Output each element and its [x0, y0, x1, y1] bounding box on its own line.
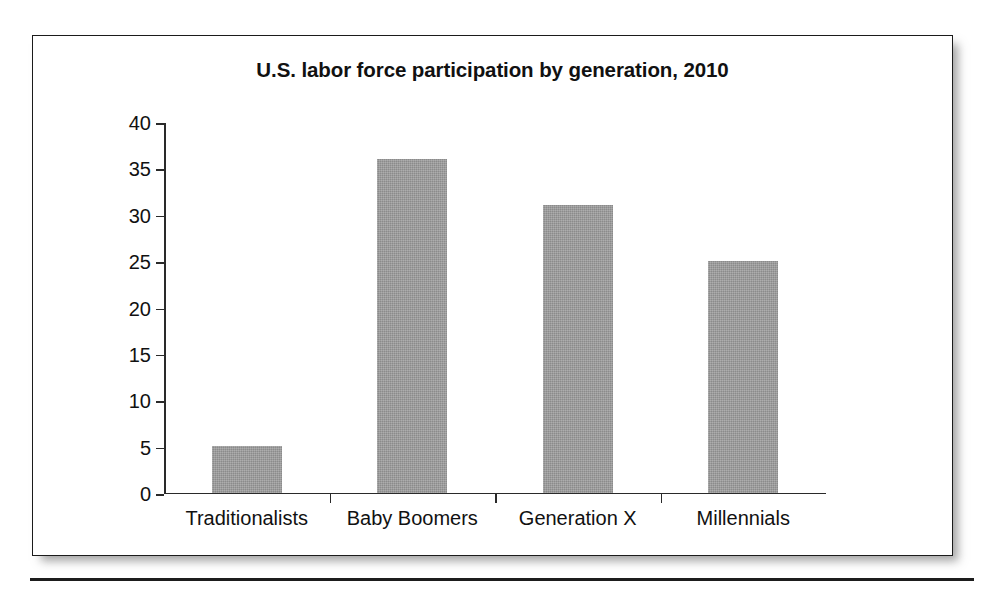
bar	[708, 261, 778, 493]
y-tick-mark	[156, 448, 164, 450]
y-tick-mark	[156, 216, 164, 218]
bottom-divider-rule	[30, 578, 974, 581]
y-tick-label: 25	[129, 251, 151, 274]
bar	[377, 159, 447, 493]
y-tick-label: 20	[129, 297, 151, 320]
x-separator-tick	[661, 494, 663, 503]
bar	[543, 205, 613, 493]
y-tick-mark	[156, 262, 164, 264]
y-tick-label: 15	[129, 343, 151, 366]
y-tick-label: 40	[129, 112, 151, 135]
x-separator-tick	[495, 494, 497, 503]
y-tick-label: 5	[140, 436, 151, 459]
y-axis-line	[164, 123, 166, 494]
y-tick-mark	[156, 494, 164, 496]
y-tick-label: 0	[140, 483, 151, 506]
y-tick-mark	[156, 355, 164, 357]
x-separator-tick	[330, 494, 332, 503]
chart-figure-frame: U.S. labor force participation by genera…	[32, 35, 953, 556]
plot-area: 0510152025303540 TraditionalistsBaby Boo…	[164, 123, 826, 494]
page-root: U.S. labor force participation by genera…	[0, 0, 1000, 599]
y-tick-label: 35	[129, 158, 151, 181]
x-tick-label: Traditionalists	[185, 507, 308, 530]
y-tick-label: 30	[129, 204, 151, 227]
x-tick-label: Generation X	[519, 507, 637, 530]
y-tick-mark	[156, 123, 164, 125]
bar	[212, 446, 282, 492]
y-tick-mark	[156, 309, 164, 311]
y-tick-mark	[156, 401, 164, 403]
x-tick-label: Millennials	[697, 507, 790, 530]
y-tick-label: 10	[129, 390, 151, 413]
x-tick-label: Baby Boomers	[347, 507, 478, 530]
chart-title: U.S. labor force participation by genera…	[33, 58, 952, 82]
y-tick-mark	[156, 169, 164, 171]
